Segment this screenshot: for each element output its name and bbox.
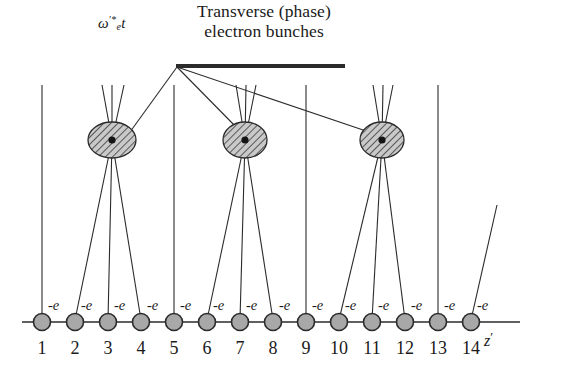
diagram-canvas [0,0,562,384]
electron-index-14: 14 [462,338,480,359]
trajectory-converge-e4 [112,140,141,320]
leader-line-to-bunch-3 [177,67,372,133]
electron-index-6: 6 [203,338,212,359]
electron-marker-7[interactable] [232,314,249,331]
trajectory-converge-e8 [245,140,273,320]
charge-label-6: -e [213,297,224,314]
leader-line-to-bunch-2 [177,67,240,131]
z-axis-label: z′ [484,329,493,350]
bunch-2-core [241,136,248,143]
bunch-1-core [108,136,115,143]
electron-marker-3[interactable] [100,314,117,331]
leader-line-to-bunch-1 [130,67,177,132]
charge-label-7: -e [246,297,257,314]
charge-label-13: -e [444,297,455,314]
electron-marker-9[interactable] [298,314,315,331]
electron-marker-6[interactable] [199,314,216,331]
electron-index-11: 11 [363,338,380,359]
charge-label-1: -e [48,297,59,314]
bunch-3-core [378,136,385,143]
bunch-3 [360,122,404,158]
charge-label-14: -e [477,297,488,314]
electron-marker-4[interactable] [133,314,150,331]
trajectory-converge-e11 [372,140,382,320]
electron-marker-8[interactable] [265,314,282,331]
charge-label-9: -e [312,297,323,314]
charge-label-5: -e [180,297,191,314]
omega-time-label: ω′*et [98,14,126,32]
bunch-2 [223,122,267,158]
electron-marker-5[interactable] [166,314,183,331]
electron-marker-1[interactable] [34,314,51,331]
electron-index-4: 4 [137,338,146,359]
bunch-1 [88,122,136,158]
charge-label-8: -e [279,297,290,314]
electron-index-1: 1 [38,338,47,359]
electron-index-9: 9 [302,338,311,359]
caption-title: Transverse (phase) electron bunches [176,2,352,41]
charge-label-10: -e [345,297,356,314]
charge-label-11: -e [378,297,389,314]
trajectory-converge-e3 [108,140,112,320]
charge-label-4: -e [147,297,158,314]
electron-index-8: 8 [269,338,278,359]
electron-marker-12[interactable] [397,314,414,331]
electron-marker-10[interactable] [331,314,348,331]
trajectory-converge-e7 [240,140,245,320]
electron-index-13: 13 [429,338,447,359]
electron-marker-14[interactable] [463,314,480,331]
electron-marker-11[interactable] [364,314,381,331]
caption-line-1: Transverse (phase) [176,2,352,22]
charge-label-2: -e [81,297,92,314]
electron-marker-2[interactable] [67,314,84,331]
electron-marker-13[interactable] [430,314,447,331]
electron-index-2: 2 [71,338,80,359]
trajectory-converge-e6 [207,140,245,320]
electron-index-5: 5 [170,338,179,359]
trajectory-converge-e2 [75,140,112,320]
electron-index-10: 10 [330,338,348,359]
omega-symbol: ω [98,15,109,31]
charge-label-3: -e [114,297,125,314]
electron-index-7: 7 [236,338,245,359]
electron-index-3: 3 [104,338,113,359]
trajectory-converge-e10 [339,140,382,320]
omega-variable: t [121,15,126,31]
trajectory-layer [42,85,497,320]
caption-line-2: electron bunches [176,22,352,42]
electron-index-12: 12 [396,338,414,359]
charge-label-12: -e [411,297,422,314]
z-axis-prime: ′ [490,329,493,344]
trajectory-converge-e12 [382,140,405,320]
transverse-phase-bunching-diagram: Transverse (phase) electron bunches ω′*e… [0,0,562,384]
